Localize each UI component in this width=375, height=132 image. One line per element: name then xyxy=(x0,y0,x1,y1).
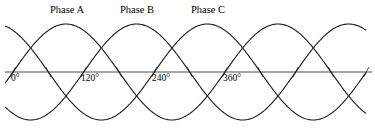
waveform-plot xyxy=(0,0,375,132)
phase-label-b: Phase B xyxy=(120,5,154,16)
axis-tick-label-240deg: 240° xyxy=(152,74,170,84)
axis-tick-label-120deg: 120° xyxy=(81,74,99,84)
axis-tick-label-360deg: 360° xyxy=(223,74,241,84)
axis-tick-label-0deg: 0° xyxy=(11,74,20,84)
phase-label-c: Phase C xyxy=(191,5,225,16)
phase-label-a: Phase A xyxy=(50,5,84,16)
three-phase-waveform-figure: Phase A Phase B Phase C 0° 120° 240° 360… xyxy=(0,0,375,132)
